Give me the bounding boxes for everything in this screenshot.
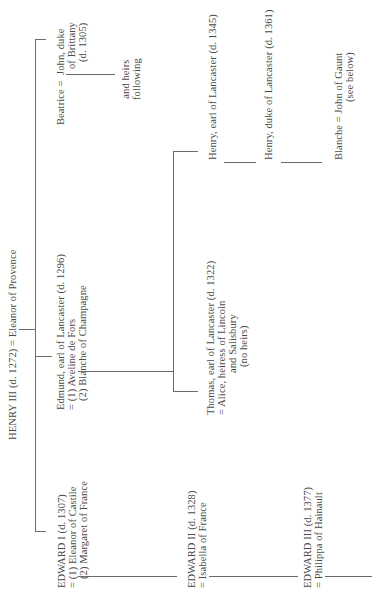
beatrice-spouse: John, duke of Brittany (d. 1305) bbox=[55, 22, 88, 75]
edward3-entry: EDWARD III (d. 1377) = Philippa of Haina… bbox=[302, 487, 324, 588]
beatrice-spouse-line-3: (d. 1305) bbox=[77, 22, 88, 75]
henry-earl-entry: Henry, earl of Lancaster (d. 1345) bbox=[207, 14, 218, 160]
edward1-spouse-2: (2) Margaret of France bbox=[78, 481, 89, 588]
beatrice-spouse-line-1: John, duke bbox=[55, 22, 66, 75]
edmund-entry: Edmund, earl of Lancaster (d. 1296) = (1… bbox=[55, 254, 88, 410]
edmund-descent-line bbox=[78, 371, 174, 372]
thomas-name: Thomas, earl of Lancaster (d. 1322) bbox=[205, 261, 216, 415]
henry-earl-tick bbox=[173, 151, 198, 152]
thomas-spouse: = Alice, heiress of Lincoln bbox=[216, 261, 227, 415]
edward1-tick bbox=[35, 531, 46, 532]
edward1-spouse-1: = (1) Eleanor of Castile bbox=[67, 481, 78, 588]
genealogy-chart: HENRY III (d. 1272) = Eleanor of Provenc… bbox=[0, 0, 372, 593]
edmund-children-bar bbox=[173, 151, 174, 392]
edmund-tick bbox=[35, 356, 52, 357]
thomas-no-heirs: (no heirs) bbox=[238, 261, 249, 415]
beatrice-spouse-line-2: of Brittany bbox=[66, 22, 77, 75]
beatrice-heirs-line-2: following bbox=[131, 58, 142, 100]
edmund-spouse-2: (2) Blanche of Champagne bbox=[77, 254, 88, 410]
henry-duke-descent-line bbox=[281, 162, 322, 163]
edward1-descent-line bbox=[78, 576, 177, 577]
blanche-entry: Blanche = John of Gaunt (see below) bbox=[333, 52, 355, 160]
edward2-descent-line bbox=[209, 576, 298, 577]
edward2-spouse: = Isabella of France bbox=[197, 490, 208, 588]
beatrice-heirs: and heirs following bbox=[120, 58, 142, 100]
thomas-tick bbox=[173, 391, 198, 392]
beatrice-name: Beatrice = bbox=[55, 80, 66, 125]
blanche-note: (see below) bbox=[344, 52, 355, 160]
edward1-entry: EDWARD I (d. 1307) = (1) Eleanor of Cast… bbox=[56, 481, 89, 588]
thomas-spouse-cont: and Salisbury bbox=[227, 261, 238, 415]
thomas-entry: Thomas, earl of Lancaster (d. 1322) = Al… bbox=[205, 261, 249, 415]
henry-earl-descent-line bbox=[224, 162, 256, 163]
beatrice-tick bbox=[35, 39, 46, 40]
henry-iii-line: HENRY III (d. 1272) = Eleanor of Provenc… bbox=[7, 250, 18, 440]
edward1-name: EDWARD I (d. 1307) bbox=[56, 481, 67, 588]
sibling-bar bbox=[35, 39, 36, 532]
edmund-spouse-1: = (1) Aveline de Fors bbox=[66, 254, 77, 410]
edward3-descent-line bbox=[325, 576, 372, 577]
edward3-name: EDWARD III (d. 1377) bbox=[302, 487, 313, 588]
blanche-line: Blanche = John of Gaunt bbox=[333, 52, 344, 160]
beatrice-heirs-line-1: and heirs bbox=[120, 58, 131, 100]
henry-duke-entry: Henry, duke of Lancaster (d. 1361) bbox=[263, 9, 274, 160]
root-descent-line bbox=[19, 329, 35, 330]
beatrice-descent-line bbox=[66, 74, 115, 75]
edward2-entry: EDWARD II (d. 1328) = Isabella of France bbox=[186, 490, 208, 588]
edmund-name: Edmund, earl of Lancaster (d. 1296) bbox=[55, 254, 66, 410]
edward2-name: EDWARD II (d. 1328) bbox=[186, 490, 197, 588]
edward3-spouse: = Philippa of Hainault bbox=[313, 487, 324, 588]
